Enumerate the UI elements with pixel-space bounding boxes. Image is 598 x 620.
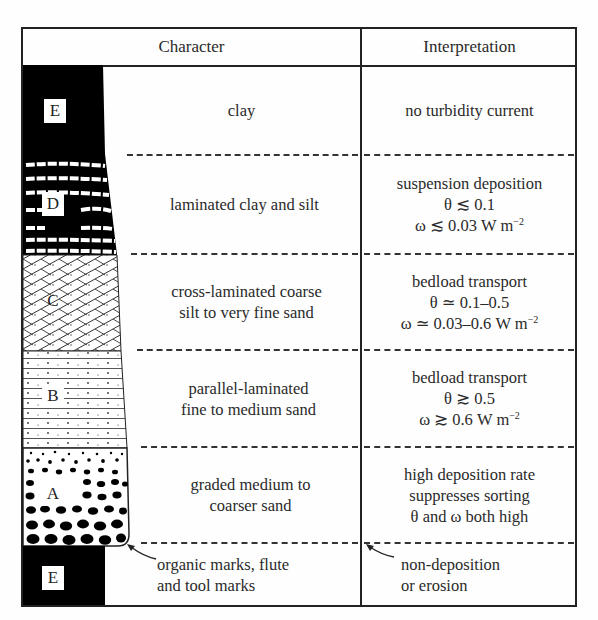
layer-label-e-bottom: E	[42, 566, 64, 590]
character-b: parallel-laminated fine to medium sand	[137, 351, 360, 446]
interpretation-e-top: no turbidity current	[362, 67, 577, 154]
interpretation-e-bottom: non-deposition or erosion	[401, 549, 571, 601]
interpretation-text: bedload transport	[412, 367, 527, 388]
character-text: organic marks, flute	[157, 554, 289, 575]
interpretation-text: θ and ω both high	[411, 506, 529, 527]
layer-label-b: B	[42, 384, 64, 408]
character-text: cross-laminated coarse	[171, 281, 322, 302]
exponent: −2	[509, 410, 520, 421]
character-text: coarser sand	[209, 495, 291, 516]
interpretation-text: θ ≃ 0.1–0.5	[430, 292, 509, 313]
character-text: silt to very fine sand	[179, 302, 314, 323]
character-text: laminated clay and silt	[170, 194, 319, 215]
character-text: and tool marks	[157, 575, 255, 596]
omega-line: ω ≲ 0.03 W m−2	[415, 215, 524, 236]
boundary-a-e-char	[141, 542, 358, 544]
interpretation-text: or erosion	[401, 575, 467, 596]
exponent: −2	[513, 216, 524, 227]
bouma-sequence-table: Character Interpretation	[21, 27, 577, 607]
interpretation-text: ω ≃ 0.03–0.6 W m	[401, 314, 528, 333]
interpretation-text: θ ≲ 0.1	[444, 194, 495, 215]
layer-label-d: D	[42, 192, 64, 216]
layer-label-a: A	[42, 482, 64, 506]
character-d: laminated clay and silt	[129, 156, 360, 253]
interpretation-text: high deposition rate	[404, 464, 535, 485]
character-text: fine to medium sand	[181, 399, 316, 420]
interpretation-text: bedload transport	[412, 271, 527, 292]
interpretation-c: bedload transport θ ≃ 0.1–0.5 ω ≃ 0.03–0…	[362, 255, 577, 349]
arrow-icon	[123, 541, 163, 565]
interpretation-text: ω ≲ 0.03 W m	[415, 216, 513, 235]
interpretation-text: non-deposition	[401, 554, 500, 575]
interpretation-text: no turbidity current	[405, 100, 533, 121]
interpretation-text: θ ≳ 0.5	[444, 388, 495, 409]
interpretation-b: bedload transport θ ≳ 0.5 ω ≳ 0.6 W m−2	[362, 351, 577, 446]
interpretation-d: suspension deposition θ ≲ 0.1 ω ≲ 0.03 W…	[362, 156, 577, 253]
character-text: parallel-laminated	[188, 378, 308, 399]
character-c: cross-laminated coarse silt to very fine…	[133, 255, 360, 349]
omega-line: ω ≃ 0.03–0.6 W m−2	[401, 313, 539, 334]
character-e-bottom: organic marks, flute and tool marks	[157, 549, 357, 601]
interpretation-a: high deposition rate suppresses sorting …	[362, 448, 577, 542]
character-text: graded medium to	[190, 474, 310, 495]
character-text: clay	[228, 100, 255, 121]
interpretation-text: ω ≳ 0.6 W m	[419, 410, 509, 429]
interpretation-text: suppresses sorting	[409, 485, 530, 506]
layer-label-e-top: E	[44, 99, 66, 123]
character-a: graded medium to coarser sand	[141, 448, 360, 542]
character-e-top: clay	[123, 67, 360, 154]
arrow-icon	[364, 541, 400, 565]
layer-label-c: C	[42, 289, 64, 313]
header-interpretation: Interpretation	[362, 29, 577, 65]
exponent: −2	[528, 313, 539, 324]
interpretation-text: suspension deposition	[397, 173, 542, 194]
omega-line: ω ≳ 0.6 W m−2	[419, 409, 520, 430]
